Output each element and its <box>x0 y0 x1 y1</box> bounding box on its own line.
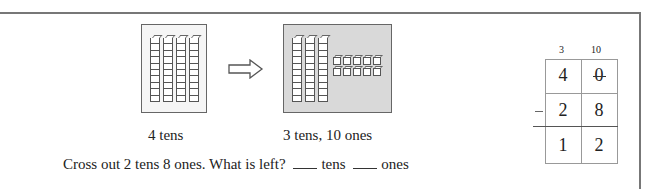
regroup-ones-mark: 10 <box>591 44 601 55</box>
right-arrow-icon <box>228 59 264 79</box>
ones-cubes <box>333 57 382 77</box>
tens-rod <box>305 35 315 102</box>
base-ten-model-4-tens <box>141 24 207 113</box>
ones-cube <box>353 68 361 76</box>
tens-rod <box>189 35 199 102</box>
ones-cube <box>353 57 361 65</box>
question-prefix: Cross out 2 tens 8 ones. What is left? <box>63 156 286 172</box>
subtrahend-tens: 2 <box>545 100 581 121</box>
subtrahend-ones: 8 <box>581 100 617 121</box>
tens-rod <box>150 35 160 102</box>
minuend-tens: 4 <box>545 65 581 86</box>
ones-cube <box>373 68 381 76</box>
base-ten-model-3-tens-10-ones <box>283 24 392 113</box>
crossed-out-digit: 0 <box>595 65 604 86</box>
minuend-ones: 0 <box>581 65 617 86</box>
ones-cube <box>343 57 351 65</box>
minus-sign <box>535 111 543 112</box>
subtraction-line <box>533 126 618 127</box>
tens-unit: tens <box>321 156 345 172</box>
left-model-label: 4 tens <box>148 127 183 144</box>
ones-cube <box>333 57 341 65</box>
ones-cube <box>333 68 341 76</box>
right-model-label: 3 tens, 10 ones <box>283 127 372 144</box>
row-divider <box>546 93 617 94</box>
ones-cube <box>363 68 371 76</box>
ones-cube <box>363 57 371 65</box>
tens-rod <box>292 35 302 102</box>
ones-cube <box>343 68 351 76</box>
frame-top-border <box>0 12 641 14</box>
frame-right-border <box>639 12 641 189</box>
difference-ones: 2 <box>581 135 617 156</box>
ones-cube <box>373 57 381 65</box>
question-text: Cross out 2 tens 8 ones. What is left? t… <box>63 156 409 173</box>
ones-unit: ones <box>381 156 409 172</box>
tens-rod <box>163 35 173 102</box>
tens-answer-blank[interactable] <box>293 156 317 169</box>
regroup-tens-mark: 3 <box>559 44 564 55</box>
ones-answer-blank[interactable] <box>353 156 377 169</box>
tens-rod <box>318 35 328 102</box>
difference-tens: 1 <box>545 135 581 156</box>
tens-rod <box>176 35 186 102</box>
